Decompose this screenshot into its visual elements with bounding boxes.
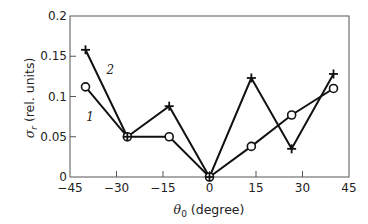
- y-tick-label: 0.05: [40, 130, 67, 144]
- plus-marker: [329, 69, 338, 78]
- x-tick-label: −30: [104, 181, 129, 195]
- circle-marker: [165, 133, 173, 141]
- circle-marker: [330, 84, 338, 92]
- x-tick-label: 0: [206, 181, 214, 195]
- x-tick-label: 45: [341, 181, 356, 195]
- data-series: [81, 45, 338, 181]
- y-tick-label: 0.15: [40, 49, 67, 63]
- plus-marker: [287, 144, 296, 153]
- x-tick-label: 30: [295, 181, 310, 195]
- plus-marker: [247, 73, 256, 82]
- y-tick-label: 0.1: [48, 90, 67, 104]
- circle-marker: [288, 111, 296, 119]
- line-chart: −45−30−150153045 00.050.10.150.2 12 θ0 (…: [0, 0, 368, 224]
- plot-frame: [70, 16, 349, 177]
- series-label-2: 2: [105, 63, 114, 77]
- circle-marker: [247, 142, 255, 150]
- x-tick-label: 15: [248, 181, 263, 195]
- y-tick-label: 0: [59, 170, 67, 184]
- y-tick-label: 0.2: [48, 9, 67, 23]
- x-tick-label: −15: [150, 181, 175, 195]
- circle-marker: [82, 83, 90, 91]
- plus-marker: [81, 45, 90, 54]
- series-label-1: 1: [86, 110, 94, 124]
- y-axis-ticks: 00.050.10.150.2: [40, 9, 76, 184]
- y-axis-title: σr (rel. units): [22, 58, 39, 139]
- series-2-line: [86, 50, 334, 177]
- series-1-line: [86, 87, 334, 177]
- x-axis-title: θ0 (degree): [174, 202, 245, 219]
